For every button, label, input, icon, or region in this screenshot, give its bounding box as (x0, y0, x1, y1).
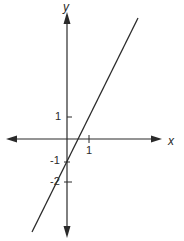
x-axis-left-arrow-icon (6, 136, 17, 143)
x-axis-label: x (168, 135, 174, 147)
y-tick-label-1: 1 (55, 111, 61, 122)
y-axis-label: y (63, 1, 69, 13)
plot-area (0, 0, 184, 241)
y-tick-label-neg1: -1 (50, 155, 60, 166)
y-axis (64, 12, 73, 238)
data-line (32, 18, 138, 232)
x-tick-label-1: 1 (86, 145, 92, 156)
x-axis (6, 135, 162, 143)
y-tick-label-neg2: -2 (50, 176, 60, 187)
y-axis-down-arrow-icon (64, 226, 71, 238)
x-axis-right-arrow-icon (151, 136, 162, 143)
